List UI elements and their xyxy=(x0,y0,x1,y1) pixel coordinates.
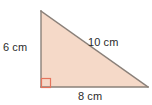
label-horizontal-leg: 8 cm xyxy=(78,90,102,102)
label-hypotenuse: 10 cm xyxy=(88,36,118,48)
label-vertical-leg: 6 cm xyxy=(3,41,27,53)
figure-canvas: 6 cm 10 cm 8 cm xyxy=(0,0,152,105)
